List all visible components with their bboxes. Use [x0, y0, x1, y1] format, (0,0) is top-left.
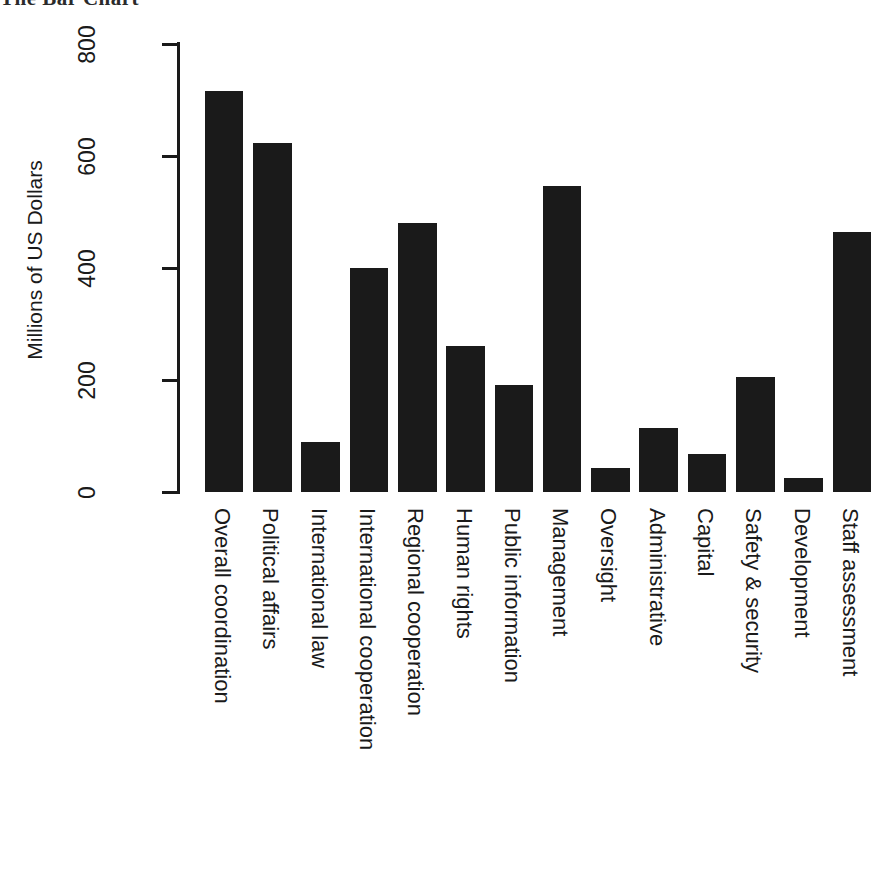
- plot-area: [179, 44, 882, 492]
- bar: [833, 232, 872, 492]
- x-axis-label: Public information: [499, 508, 525, 848]
- bar: [543, 186, 582, 492]
- x-axis-label: Oversight: [595, 508, 621, 848]
- x-axis-label: International cooperation: [354, 508, 380, 848]
- x-axis-label: Regional cooperation: [402, 508, 428, 848]
- x-axis-label: Management: [547, 508, 573, 848]
- bar-chart-figure: The Bar Chart Millions of US Dollars 020…: [0, 0, 882, 896]
- y-axis-tick: [162, 491, 179, 494]
- bar: [639, 428, 678, 492]
- y-axis-tick: [162, 379, 179, 382]
- y-axis-tick: [162, 43, 179, 46]
- bar: [736, 377, 775, 492]
- bar: [253, 143, 292, 492]
- y-axis-tick-label: 200: [74, 321, 101, 441]
- bar: [688, 454, 727, 492]
- x-axis-label: Administrative: [644, 508, 670, 848]
- bar: [784, 478, 823, 492]
- x-axis-label: Staff assessment: [837, 508, 863, 848]
- x-axis-label: International law: [306, 508, 332, 848]
- x-axis-label: Human rights: [451, 508, 477, 848]
- x-axis-label: Safety & security: [740, 508, 766, 848]
- y-axis-title: Millions of US Dollars: [0, 0, 70, 520]
- y-axis-tick-label: 400: [74, 209, 101, 329]
- bar: [495, 385, 534, 492]
- y-axis-tick-label: 800: [74, 0, 101, 105]
- x-axis-label: Development: [789, 508, 815, 848]
- bar: [398, 223, 437, 492]
- bar: [205, 91, 244, 492]
- bar: [350, 268, 389, 492]
- x-axis-label: Political affairs: [257, 508, 283, 848]
- y-axis-title-text: Millions of US Dollars: [23, 160, 47, 360]
- y-axis-tick: [162, 155, 179, 158]
- y-axis-tick: [162, 267, 179, 270]
- y-axis-tick-label: 600: [74, 97, 101, 217]
- bar: [591, 468, 630, 492]
- y-axis-tick-label: 0: [74, 433, 101, 553]
- x-axis-label: Overall coordination: [209, 508, 235, 848]
- bar: [446, 346, 485, 492]
- bar: [301, 442, 340, 492]
- x-axis-label: Capital: [692, 508, 718, 848]
